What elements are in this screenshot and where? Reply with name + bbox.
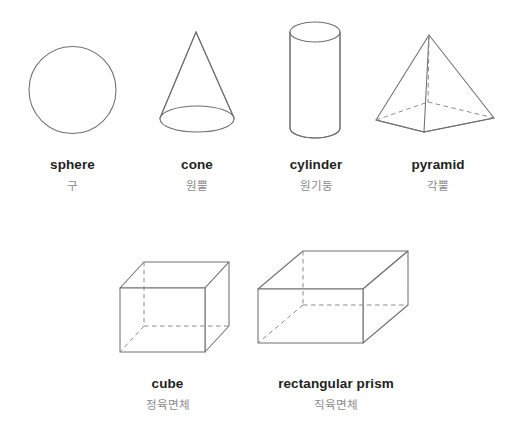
- label-ko-cylinder: 원기둥: [252, 177, 380, 193]
- cone-figure: [128, 20, 266, 150]
- cylinder-figure: [252, 20, 380, 150]
- shape-cell-sphere: sphere 구: [0, 20, 145, 195]
- label-en-pyramid: pyramid: [366, 157, 510, 172]
- sphere-figure: [0, 20, 145, 150]
- label-ko-sphere: 구: [0, 177, 145, 193]
- shape-cell-cylinder: cylinder 원기둥: [252, 20, 380, 195]
- shape-cell-cone: cone 원뿔: [128, 20, 266, 195]
- shape-cell-cube: cube 정육면체: [100, 250, 235, 415]
- cube-figure: [100, 250, 235, 368]
- label-ko-cube: 정육면체: [100, 396, 235, 412]
- label-ko-cone: 원뿔: [128, 177, 266, 193]
- rectangular-prism-figure: [240, 240, 432, 368]
- shapes-diagram: sphere 구 cone 원뿔 cylinder 원기: [0, 0, 510, 423]
- label-ko-pyramid: 각뿔: [366, 177, 510, 193]
- shape-cell-pyramid: pyramid 각뿔: [366, 20, 510, 195]
- label-en-cube: cube: [100, 376, 235, 391]
- label-en-cylinder: cylinder: [252, 157, 380, 172]
- label-en-rectangular-prism: rectangular prism: [240, 376, 432, 391]
- label-en-sphere: sphere: [0, 157, 145, 172]
- label-ko-rectangular-prism: 직육면체: [240, 396, 432, 412]
- pyramid-figure: [366, 20, 510, 150]
- label-en-cone: cone: [128, 157, 266, 172]
- shape-cell-rectangular-prism: rectangular prism 직육면체: [240, 240, 432, 415]
